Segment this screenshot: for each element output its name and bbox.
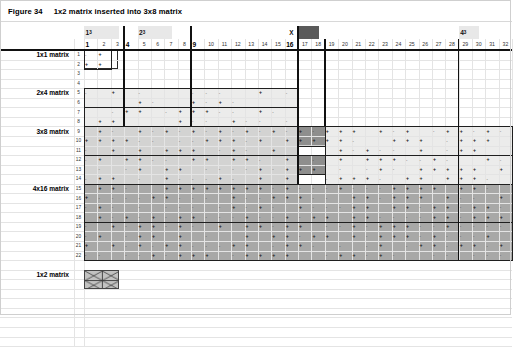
- column-header-22[interactable]: 22: [365, 39, 378, 49]
- row-header-10[interactable]: 10: [74, 136, 84, 146]
- gridline-v: [352, 39, 353, 260]
- header-power-label-4: 43: [459, 26, 479, 39]
- column-header-7[interactable]: 7: [164, 39, 177, 49]
- border-inserted-b-right: [325, 155, 326, 175]
- column-header-24[interactable]: 24: [392, 39, 405, 49]
- border-4x16-half-left: [84, 184, 85, 222]
- row-header-9[interactable]: 9: [74, 126, 84, 136]
- column-header-19[interactable]: 19: [325, 39, 338, 49]
- figure-number: Figure 34: [8, 7, 43, 16]
- row-label-4x16-matrix: 4x16 matrix: [0, 184, 73, 194]
- legend-1x2-matrix-block: [84, 270, 119, 289]
- header-power-label-1: 13: [84, 26, 119, 39]
- border-4x16-bottom: [84, 260, 512, 261]
- gridline-v: [164, 39, 165, 260]
- column-header-6[interactable]: 6: [151, 39, 164, 49]
- gridline-v: [432, 39, 433, 260]
- row-header-5[interactable]: 5: [74, 88, 84, 98]
- row-header-13[interactable]: 13: [74, 165, 84, 175]
- row-header-8[interactable]: 8: [74, 117, 84, 127]
- row-header-20[interactable]: 20: [74, 231, 84, 241]
- gridline-v: [151, 39, 152, 260]
- column-header-25[interactable]: 25: [405, 39, 418, 49]
- row-header-16[interactable]: 16: [74, 193, 84, 203]
- row-header-2[interactable]: 2: [74, 60, 84, 70]
- gridline-h: [0, 327, 512, 328]
- column-header-20[interactable]: 20: [338, 39, 351, 49]
- gridline-v: [258, 39, 259, 260]
- gridline-h: [0, 337, 512, 338]
- row-label-1x2-matrix: 1x2 matrix: [0, 270, 73, 280]
- border-inserted-b-bottom: [298, 174, 325, 175]
- header-x-marker: X: [285, 26, 298, 39]
- gridline-h: [0, 270, 512, 271]
- border-inserted-a-right: [325, 126, 326, 146]
- border-inserted-a-bottom: [298, 146, 325, 147]
- gridline-v: [111, 39, 112, 260]
- row-header-7[interactable]: 7: [74, 107, 84, 117]
- column-header-2[interactable]: 2: [97, 39, 110, 49]
- gridline-v: [499, 39, 500, 260]
- gridline-v: [378, 39, 379, 260]
- row-header-4[interactable]: 4: [74, 79, 84, 89]
- gridline-v: [392, 39, 393, 260]
- header-underline: [0, 49, 512, 50]
- column-header-23[interactable]: 23: [378, 39, 391, 49]
- border-4x16-half-bottom: [84, 222, 512, 223]
- column-header-28[interactable]: 28: [445, 39, 458, 49]
- row-header-14[interactable]: 14: [74, 174, 84, 184]
- column-header-27[interactable]: 27: [432, 39, 445, 49]
- row-header-18[interactable]: 18: [74, 212, 84, 222]
- border-2x4-half-left: [84, 88, 85, 107]
- column-header-13[interactable]: 13: [245, 39, 258, 49]
- row-header-15[interactable]: 15: [74, 184, 84, 194]
- column-header-29[interactable]: 29: [459, 39, 472, 49]
- border-1x1-right: [111, 50, 112, 70]
- gridline-v: [485, 39, 486, 260]
- gridline-v: [285, 39, 286, 260]
- gridline-v: [245, 39, 246, 260]
- power-separator-0: [123, 26, 124, 126]
- gridline-h: [0, 298, 512, 299]
- column-header-11[interactable]: 11: [218, 39, 231, 49]
- column-header-18[interactable]: 18: [311, 39, 324, 49]
- row-header-3[interactable]: 3: [74, 69, 84, 79]
- column-header-32[interactable]: 32: [499, 39, 512, 49]
- gridline-v: [204, 39, 205, 260]
- column-header-30[interactable]: 30: [472, 39, 485, 49]
- column-header-15[interactable]: 15: [271, 39, 284, 49]
- border-3x8-half-left: [84, 126, 85, 155]
- column-header-14[interactable]: 14: [258, 39, 271, 49]
- row-header-6[interactable]: 6: [74, 98, 84, 108]
- row-header-11[interactable]: 11: [74, 146, 84, 156]
- column-header-10[interactable]: 10: [204, 39, 217, 49]
- border-inserted-b-top: [298, 155, 325, 156]
- column-header-31[interactable]: 31: [485, 39, 498, 49]
- header-power-label-2: 23: [138, 26, 173, 39]
- column-header-26[interactable]: 26: [419, 39, 432, 49]
- column-header-12[interactable]: 12: [231, 39, 244, 49]
- gridline-v: [178, 39, 179, 260]
- gridline-v: [445, 39, 446, 260]
- row-header-12[interactable]: 12: [74, 155, 84, 165]
- power-separator-3: [324, 39, 325, 126]
- row-header-19[interactable]: 19: [74, 222, 84, 232]
- row-label-2x4-matrix: 2x4 matrix: [0, 88, 73, 98]
- gridline-v: [365, 39, 366, 260]
- column-header-3[interactable]: 3: [111, 39, 124, 49]
- column-header-8[interactable]: 8: [178, 39, 191, 49]
- column-header-5[interactable]: 5: [138, 39, 151, 49]
- column-header-21[interactable]: 21: [352, 39, 365, 49]
- border-inserted-a-top: [298, 126, 325, 127]
- row-header-17[interactable]: 17: [74, 203, 84, 213]
- border-4x16-half-top: [84, 184, 512, 185]
- gridline-v: [218, 39, 219, 260]
- border-1x1-bottom: [84, 69, 111, 70]
- header-dark-block: [299, 26, 320, 39]
- row-header-22[interactable]: 22: [74, 251, 84, 261]
- gridline-h: [0, 289, 512, 290]
- row-header-21[interactable]: 21: [74, 241, 84, 251]
- gridline-h: [0, 317, 512, 318]
- row-header-1[interactable]: 1: [74, 50, 84, 60]
- column-header-17[interactable]: 17: [298, 39, 311, 49]
